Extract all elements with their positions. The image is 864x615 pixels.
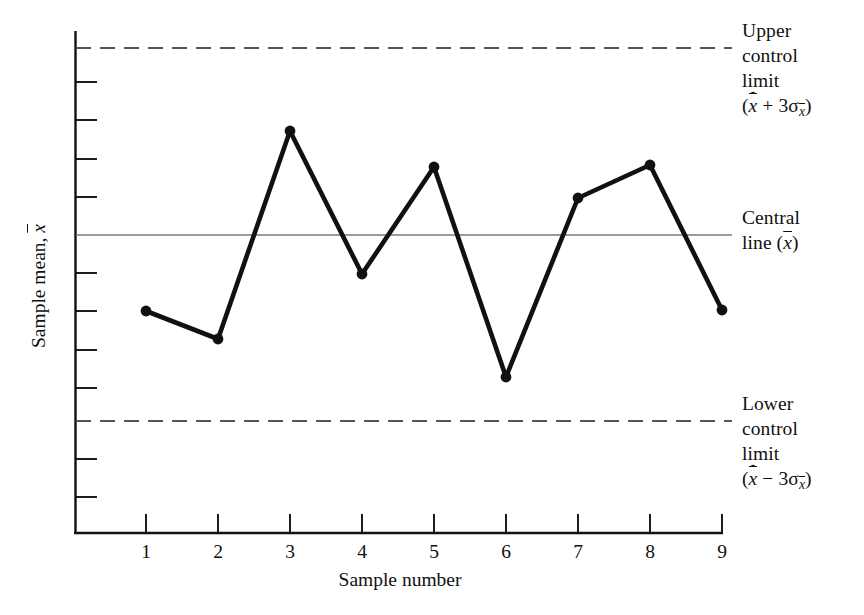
- data-point[interactable]: [645, 160, 656, 171]
- x-tick-label-3: 3: [270, 541, 310, 563]
- data-point[interactable]: [717, 305, 728, 316]
- data-point[interactable]: [285, 126, 296, 137]
- x-tick-label-9: 9: [702, 541, 742, 563]
- y-axis-ticks: [76, 82, 97, 497]
- x-tick-label-1: 1: [126, 541, 166, 563]
- ucl-line-1: Upper: [742, 18, 812, 43]
- central-paren-close: ): [792, 232, 799, 253]
- data-point[interactable]: [573, 193, 584, 204]
- y-axis-title: Sample mean, x: [28, 76, 50, 496]
- y-axis-title-xbar: x: [28, 224, 49, 233]
- lcl-paren-open: (: [742, 468, 749, 489]
- data-point[interactable]: [357, 269, 368, 280]
- central-line-1: Central: [742, 205, 800, 230]
- x-tick-label-8: 8: [630, 541, 670, 563]
- central-prefix: line (: [742, 232, 783, 253]
- ucl-sigma: σ: [788, 95, 799, 116]
- x-tick-label-5: 5: [414, 541, 454, 563]
- lcl-operator: − 3: [757, 468, 788, 489]
- data-point[interactable]: [141, 306, 152, 317]
- lcl-line-1: Lower: [742, 391, 812, 416]
- ucl-paren-open: (: [742, 95, 749, 116]
- sample-mean-data-points: [141, 126, 728, 383]
- central-line-label: Central line (x): [742, 205, 800, 255]
- ucl-line-2: control: [742, 43, 812, 68]
- x-tick-label-7: 7: [558, 541, 598, 563]
- ucl-operator: + 3: [757, 95, 788, 116]
- lcl-line-2: control: [742, 416, 812, 441]
- x-axis-title: Sample number: [0, 569, 800, 591]
- central-line-2: line (x): [742, 230, 800, 255]
- x-axis-ticks: [146, 514, 722, 533]
- lcl-paren-close: ): [805, 468, 812, 489]
- x-tick-label-2: 2: [198, 541, 238, 563]
- data-point[interactable]: [213, 334, 224, 345]
- ucl-formula: (x + 3σx): [742, 93, 812, 124]
- lower-control-limit-label: Lower control limit (x − 3σx): [742, 391, 812, 497]
- upper-control-limit-label: Upper control limit (x + 3σx): [742, 18, 812, 124]
- chart-plot-area: [0, 0, 864, 615]
- central-xbar: x: [783, 232, 792, 253]
- data-point[interactable]: [429, 162, 440, 173]
- ucl-paren-close: ): [805, 95, 812, 116]
- data-point[interactable]: [501, 372, 512, 383]
- x-tick-label-4: 4: [342, 541, 382, 563]
- y-axis-title-text: Sample mean,: [28, 233, 49, 348]
- lcl-line-3: limit: [742, 441, 812, 466]
- ucl-line-3: limit: [742, 68, 812, 93]
- x-tick-label-6: 6: [486, 541, 526, 563]
- control-chart-figure: Upper control limit (x + 3σx) Central li…: [0, 0, 864, 615]
- lcl-sigma: σ: [788, 468, 799, 489]
- axis-lines: [74, 31, 723, 534]
- lcl-formula: (x − 3σx): [742, 466, 812, 497]
